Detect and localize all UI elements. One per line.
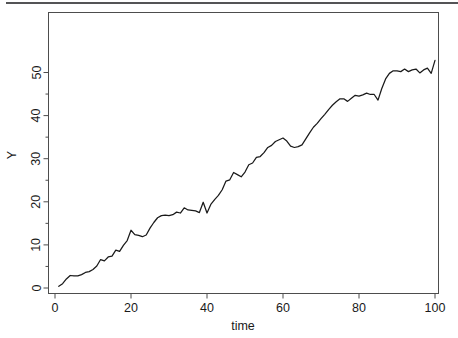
top-divider-rule (6, 2, 458, 4)
chart-figure: 020406080100 01020304050 time Y (0, 0, 458, 338)
x-tick-label: 20 (124, 301, 138, 315)
plot-frame (49, 13, 439, 294)
x-axis-tick-labels: 020406080100 (52, 301, 446, 315)
data-series-line (59, 60, 435, 286)
y-axis-title: Y (5, 150, 19, 159)
y-tick-label: 50 (30, 66, 44, 80)
x-tick-label: 100 (425, 301, 446, 315)
y-tick-label: 30 (30, 152, 44, 166)
x-tick-label: 60 (276, 301, 290, 315)
y-axis-tick-labels: 01020304050 (30, 66, 44, 292)
y-tick-label: 40 (30, 109, 44, 123)
x-tick-label: 40 (200, 301, 214, 315)
y-tick-label: 10 (30, 238, 44, 252)
y-tick-label: 0 (30, 284, 44, 291)
y-axis-ticks (44, 73, 49, 289)
x-axis-title: time (231, 319, 255, 333)
x-tick-label: 80 (352, 301, 366, 315)
y-tick-label: 20 (30, 195, 44, 209)
x-tick-label: 0 (52, 301, 59, 315)
line-chart-plot: 020406080100 01020304050 time Y (0, 0, 458, 338)
x-axis-ticks (55, 294, 435, 299)
